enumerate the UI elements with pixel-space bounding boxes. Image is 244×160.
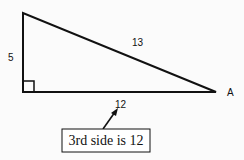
base-side-label: 12 xyxy=(115,99,127,110)
vertex-a-label: A xyxy=(227,87,234,98)
hypotenuse-label: 13 xyxy=(132,37,144,48)
right-angle-marker xyxy=(23,81,34,92)
callout-text: 3rd side is 12 xyxy=(68,133,143,148)
callout-arrow xyxy=(103,112,115,129)
triangle-diagram: 5 13 A 12 3rd side is 12 xyxy=(0,0,244,160)
right-triangle xyxy=(23,13,216,92)
vertical-side-label: 5 xyxy=(8,52,14,63)
